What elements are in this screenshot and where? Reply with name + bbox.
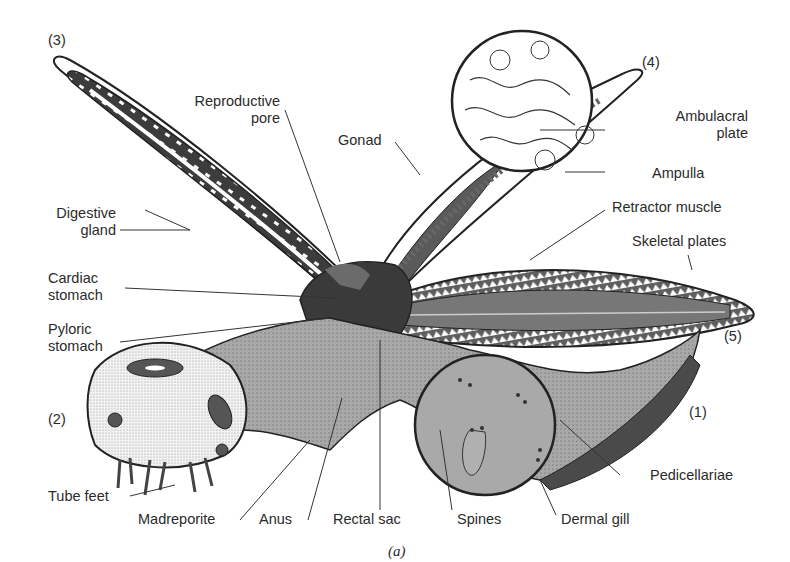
label-cardiac-stomach: Cardiacstomach [48,270,103,304]
figure-caption: (a) [388,543,406,560]
label-skeletal-plates: Skeletal plates [632,233,726,250]
label-reproductive-pore: Reproductivepore [172,93,280,127]
label-ambulacral-plate: Ambulacralplate [600,108,748,142]
label-pyloric-stomach: Pyloricstomach [48,321,103,355]
label-pedicellariae: Pedicellariae [650,467,733,484]
arm-number-5: (5) [724,328,742,345]
ampulla-magnifier [452,31,594,171]
label-retractor-muscle: Retractor muscle [612,199,722,216]
label-madreporite: Madreporite [138,511,215,528]
body-wall-magnifier [415,355,555,495]
label-dermal-gill: Dermal gill [561,511,630,528]
label-gonad: Gonad [338,132,382,149]
arm-number-3: (3) [48,32,66,49]
arm-number-4: (4) [642,54,660,71]
starfish-anatomy-figure: (3) (4) (5) (1) (2) Reproductivepore Gon… [0,0,790,562]
arm-number-1: (1) [689,404,707,421]
label-digestive-gland: Digestivegland [20,205,116,239]
label-tube-feet: Tube feet [48,488,109,505]
label-rectal-sac: Rectal sac [333,511,401,528]
label-anus: Anus [259,511,292,528]
arm-number-2: (2) [48,411,66,428]
label-spines: Spines [457,511,501,528]
arm-2-cross-section [88,343,247,495]
label-ampulla: Ampulla [652,165,704,182]
